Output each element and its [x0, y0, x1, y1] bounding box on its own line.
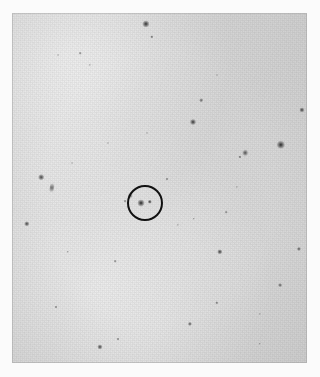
- emulsion-grain-texture: [12, 13, 307, 363]
- finding-chart-figure: [0, 0, 320, 377]
- sky-plate-image: [12, 13, 307, 363]
- target-marker-circle: [127, 185, 163, 221]
